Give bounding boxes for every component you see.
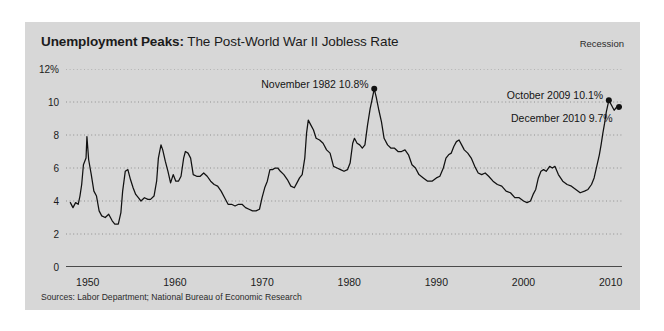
legend-label: Recession <box>580 38 624 49</box>
peak-marker <box>371 86 377 92</box>
page-title: Unemployment Peaks: The Post-World War I… <box>41 34 398 49</box>
y-tick-label: 12% <box>39 64 59 75</box>
x-tick-label: 2000 <box>512 276 535 288</box>
chart-annotation: December 2010 9.7% <box>511 112 613 124</box>
chart-screenshot: Unemployment Peaks: The Post-World War I… <box>0 0 664 331</box>
x-axis-labels: 1950196019701980199020002010 <box>66 272 622 288</box>
y-tick-label: 8 <box>53 130 59 141</box>
y-axis-labels: 12%1086420 <box>25 69 63 267</box>
x-tick-label: 1980 <box>338 276 361 288</box>
x-tick-label: 2010 <box>599 276 622 288</box>
source-text: Sources: Labor Department; National Bure… <box>41 292 302 302</box>
y-tick-label: 4 <box>53 196 59 207</box>
x-tick-label: 1960 <box>163 276 186 288</box>
peak-marker <box>616 104 622 110</box>
series-line-unemployment <box>70 89 619 224</box>
source-note: Sources: Labor Department; National Bure… <box>41 292 302 302</box>
chart-annotation: November 1982 10.8% <box>261 78 368 90</box>
y-tick-label: 6 <box>53 163 59 174</box>
legend-recession: Recession <box>580 38 624 49</box>
chart-annotation: October 2009 10.1% <box>507 89 603 101</box>
y-tick-label: 10 <box>48 97 59 108</box>
y-tick-label: 2 <box>53 229 59 240</box>
x-tick-label: 1970 <box>250 276 273 288</box>
x-tick-label: 1990 <box>425 276 448 288</box>
title-rest: The Post-World War II Jobless Rate <box>184 34 399 49</box>
chart-panel: Unemployment Peaks: The Post-World War I… <box>25 22 640 310</box>
x-tick-label: 1950 <box>76 276 99 288</box>
y-tick-label: 0 <box>53 262 59 273</box>
title-bold: Unemployment Peaks: <box>41 34 184 49</box>
peak-marker <box>606 97 612 103</box>
